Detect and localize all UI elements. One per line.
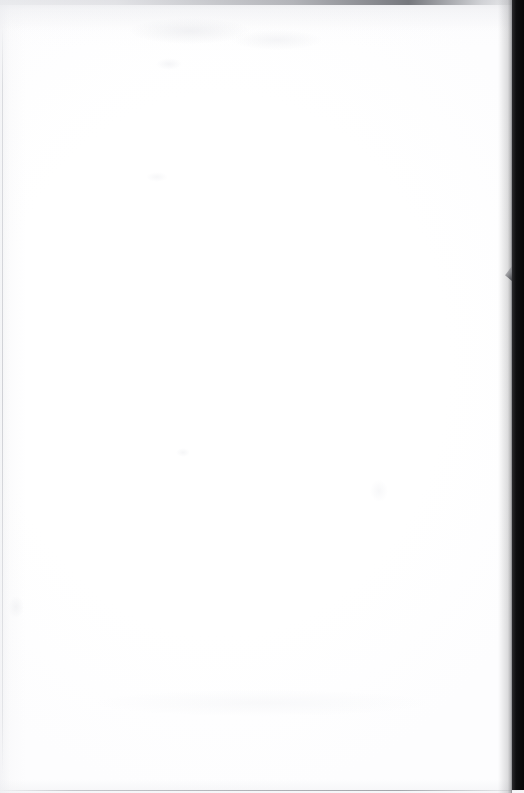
- scanned-page: [0, 0, 524, 793]
- left-paper-edge-line: [2, 26, 3, 774]
- top-scan-shadow-band: [0, 0, 524, 5]
- right-scanner-gutter: [512, 0, 524, 790]
- page-content-area: [34, 44, 486, 756]
- bottom-paper-edge-line: [0, 790, 524, 791]
